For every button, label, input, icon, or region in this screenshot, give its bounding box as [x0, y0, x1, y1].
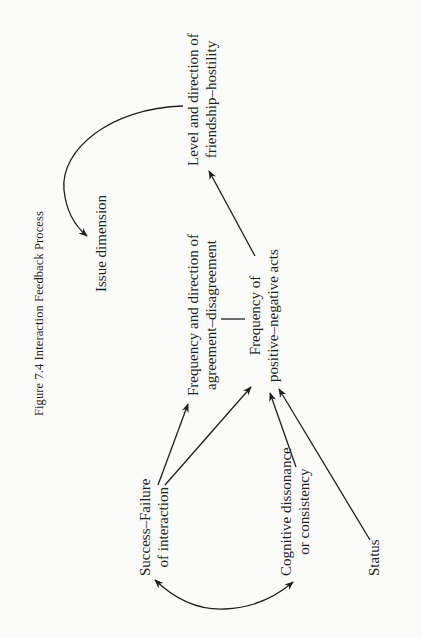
node-positive-line2: positive–negative acts: [264, 249, 282, 382]
node-issue-dimension: Issue dimension: [92, 195, 110, 292]
figure-caption: Figure 7.4 Interaction Feedback Process: [30, 211, 48, 416]
node-success-failure: Success–Failure of interaction: [136, 479, 172, 576]
arrow-success-to-positive: [165, 387, 251, 485]
node-friendship-line1: Level and direction of: [184, 33, 202, 166]
node-agreement-disagreement: Frequency and direction of agreement–dis…: [184, 234, 220, 396]
node-friendship-line2: friendship–hostility: [202, 33, 220, 166]
node-friendship-hostility: Level and direction of friendship–hostil…: [184, 33, 220, 166]
node-positive-negative-acts: Frequency of positive–negative acts: [246, 249, 282, 382]
node-status: Status: [365, 539, 383, 576]
node-agreement-line2: agreement–disagreement: [202, 234, 220, 396]
node-positive-line1: Frequency of: [246, 249, 264, 382]
node-success-line1: Success–Failure: [136, 479, 154, 576]
arrow-friendship-to-issue: [64, 106, 183, 236]
node-issue-line1: Issue dimension: [92, 195, 110, 292]
node-agreement-line1: Frequency and direction of: [184, 234, 202, 396]
node-status-line1: Status: [365, 539, 383, 576]
node-cognitive-line2: or consistency: [295, 447, 313, 576]
diagram-page: Figure 7.4 Interaction Feedback Process …: [0, 0, 421, 638]
node-success-line2: of interaction: [154, 479, 172, 576]
arrow-success-to-agreement: [158, 404, 188, 485]
node-cognitive-line1: Cognitive dissonance: [277, 447, 295, 576]
arrow-success-cognitive-bidirectional: [155, 580, 293, 609]
node-cognitive-dissonance: Cognitive dissonance or consistency: [277, 447, 313, 576]
